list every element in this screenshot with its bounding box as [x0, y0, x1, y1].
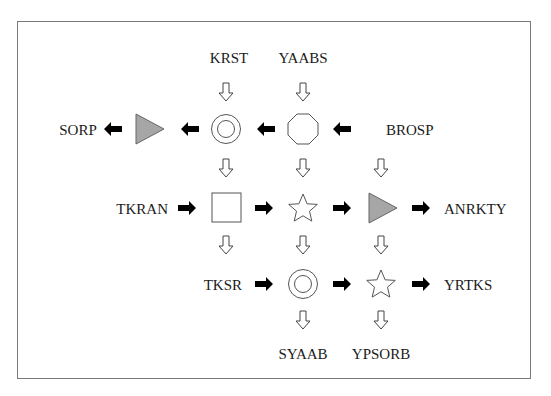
gray-triangle-shape	[369, 193, 397, 223]
hollow-down-arrow-icon	[219, 236, 233, 254]
solid-right-arrow-icon	[412, 277, 430, 291]
solid-right-arrow-icon	[178, 201, 196, 215]
octagon-shape	[288, 114, 318, 144]
hollow-down-arrow-icon	[374, 311, 388, 329]
solid-right-arrow-icon	[333, 277, 351, 291]
hollow-down-arrow-icon	[374, 236, 388, 254]
solid-left-arrow-icon	[333, 122, 351, 136]
star-shape	[367, 270, 396, 297]
label-anrkty: ANRKTY	[444, 201, 507, 217]
hollow-down-arrow-icon	[296, 311, 310, 329]
solid-right-arrow-icon	[412, 201, 430, 215]
double-circle-shape	[212, 115, 241, 144]
label-yaabs: YAABS	[278, 50, 327, 66]
hollow-down-arrow-icon	[374, 159, 388, 177]
label-krst: KRST	[210, 50, 248, 66]
solid-left-arrow-icon	[104, 122, 122, 136]
solid-left-arrow-icon	[257, 122, 275, 136]
hollow-down-arrow-icon	[219, 159, 233, 177]
label-yrtks: YRTKS	[444, 277, 492, 293]
gray-triangle-shape	[136, 114, 164, 144]
label-ypsorb: YPSORB	[352, 346, 410, 362]
double-circle-shape	[289, 270, 318, 299]
label-sorp: SORP	[59, 122, 97, 138]
solid-right-arrow-icon	[255, 277, 273, 291]
star-shape	[289, 194, 318, 221]
hollow-down-arrow-icon	[219, 83, 233, 101]
solid-right-arrow-icon	[333, 201, 351, 215]
hollow-down-arrow-icon	[296, 83, 310, 101]
label-brosp: BROSP	[386, 122, 434, 138]
label-tkran: TKRAN	[116, 201, 168, 217]
square-shape	[212, 193, 241, 222]
label-syaab: SYAAB	[278, 346, 327, 362]
hollow-down-arrow-icon	[296, 236, 310, 254]
label-tksr: TKSR	[204, 277, 242, 293]
solid-right-arrow-icon	[255, 201, 273, 215]
solid-left-arrow-icon	[181, 122, 199, 136]
flow-diagram: KRST YAABS SORP BROSP TKRAN ANRKTY TKSR …	[0, 0, 551, 396]
hollow-down-arrow-icon	[296, 159, 310, 177]
